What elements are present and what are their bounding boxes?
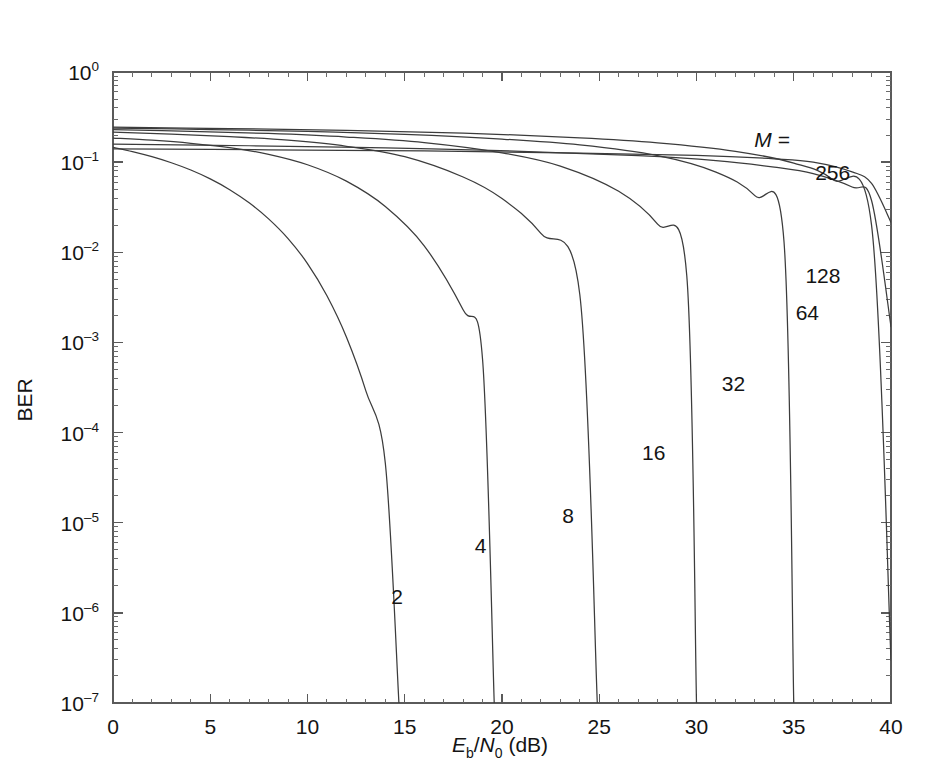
y-tick-label-base: 10 xyxy=(61,151,84,174)
curve-label-m-128: 128 xyxy=(805,264,840,287)
x-tick-label: 10 xyxy=(296,715,319,738)
x-axis-title-sub-0: 0 xyxy=(495,745,503,761)
y-tick-label: 10–1 xyxy=(61,149,99,174)
y-tick-label: 10–4 xyxy=(61,420,100,445)
y-tick-label-base: 10 xyxy=(61,512,84,535)
y-tick-label-exponent: –3 xyxy=(84,329,99,344)
y-tick-label: 10–5 xyxy=(61,510,99,535)
curve-label-m-16: 16 xyxy=(642,441,665,464)
ber-curve-m-4 xyxy=(113,138,494,703)
y-tick-label: 10–7 xyxy=(61,690,99,715)
y-tick-label-base: 10 xyxy=(61,241,84,264)
x-tick-label: 40 xyxy=(879,715,902,738)
y-tick-label-base: 10 xyxy=(61,602,84,625)
y-tick-labels: 10010–110–210–310–410–510–610–7 xyxy=(61,59,100,715)
x-tick-label: 5 xyxy=(204,715,216,738)
x-tick-label: 35 xyxy=(782,715,805,738)
y-tick-label-base: 10 xyxy=(61,422,84,445)
y-tick-label-base: 10 xyxy=(68,61,91,84)
x-tick-label: 15 xyxy=(393,715,416,738)
curve-label-m-8: 8 xyxy=(562,504,574,527)
curve-label-m-32: 32 xyxy=(722,372,745,395)
legend-title-symbol: M = xyxy=(754,128,790,151)
y-tick-label-exponent: –1 xyxy=(84,149,99,164)
curve-labels: 248163264128256 xyxy=(391,161,850,608)
x-axis-title-n: N xyxy=(480,733,496,756)
x-axis-title-unit-text: (dB) xyxy=(508,733,548,756)
y-tick-label-exponent: 0 xyxy=(91,59,99,74)
y-tick-label-base: 10 xyxy=(61,692,84,715)
y-tick-label-exponent: –5 xyxy=(84,510,99,525)
x-axis-title-sub-b: b xyxy=(466,745,474,761)
ber-vs-ebn0-figure: 0510152025303540 10010–110–210–310–410–5… xyxy=(0,0,950,766)
y-tick-label: 10–2 xyxy=(61,239,99,264)
ber-curve-m-16 xyxy=(113,130,697,703)
x-tick-label: 0 xyxy=(107,715,119,738)
curve-label-m-4: 4 xyxy=(475,534,487,557)
legend-title-m-equals: M = xyxy=(754,128,790,151)
x-tick-label: 30 xyxy=(685,715,708,738)
ber-curve-m-256 xyxy=(113,149,891,222)
y-axis-title: BER xyxy=(13,378,36,421)
y-tick-label-exponent: –4 xyxy=(84,420,100,435)
ber-curve-m-2 xyxy=(113,147,399,703)
x-axis-title-e: E xyxy=(452,733,467,756)
ber-curve-m-8 xyxy=(113,132,597,703)
y-tick-label-exponent: –6 xyxy=(84,600,99,615)
ber-curve-m-64 xyxy=(113,127,891,660)
y-tick-label: 10–6 xyxy=(61,600,99,625)
curve-label-m-64: 64 xyxy=(796,301,820,324)
ber-curve-m-128 xyxy=(113,144,891,326)
y-tick-label-exponent: –2 xyxy=(84,239,99,254)
y-tick-label-exponent: –7 xyxy=(84,690,99,705)
chart-canvas: 0510152025303540 10010–110–210–310–410–5… xyxy=(0,0,950,766)
x-tick-label: 25 xyxy=(588,715,611,738)
y-tick-label: 10–3 xyxy=(61,329,99,354)
curve-label-m-256: 256 xyxy=(815,161,850,184)
curves-group xyxy=(113,127,891,703)
curve-label-m-2: 2 xyxy=(391,585,403,608)
y-tick-label: 100 xyxy=(68,59,99,84)
y-tick-label-base: 10 xyxy=(61,331,84,354)
